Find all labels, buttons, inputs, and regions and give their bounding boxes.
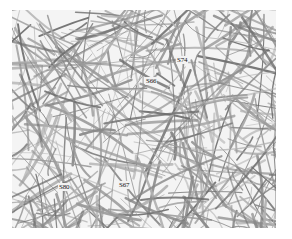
sample-label-s80: S80 xyxy=(58,183,70,191)
sample-label-s67: S67 xyxy=(118,181,130,189)
fiber-network-texture xyxy=(12,10,276,228)
sample-label-s66: S66 xyxy=(145,77,157,85)
sample-label-s74: S74 xyxy=(176,56,188,64)
fiber-micrograph xyxy=(12,10,276,228)
